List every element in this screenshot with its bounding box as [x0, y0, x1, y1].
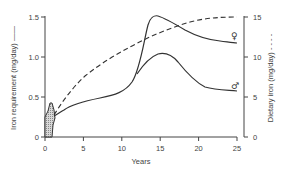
female-requirement-line: [54, 16, 237, 116]
dietary-iron-dashed-line: [54, 17, 237, 115]
svg-text:0: 0: [43, 144, 47, 153]
svg-text:15: 15: [253, 13, 261, 22]
right-y-tick-labels: 15 10 5 0: [253, 13, 261, 142]
chart: 1.5 1.0 0.5 0 Iron requirement (mg/day) …: [0, 0, 281, 176]
x-tick-labels: 0 5 10 15 20 25: [43, 144, 241, 153]
x-axis-title: Years: [132, 157, 151, 166]
svg-text:5: 5: [81, 144, 85, 153]
left-y-tick-labels: 1.5 1.0 0.5 0: [29, 13, 39, 142]
svg-text:1.5: 1.5: [29, 13, 39, 22]
svg-text:20: 20: [194, 144, 202, 153]
svg-text:25: 25: [233, 144, 241, 153]
right-y-axis-title: Dietary iron (mg/day) - - - -: [266, 33, 275, 122]
left-y-axis: [41, 16, 45, 137]
svg-text:0.5: 0.5: [29, 93, 39, 102]
male-requirement-line: [137, 53, 237, 91]
svg-text:15: 15: [156, 144, 164, 153]
svg-text:0: 0: [35, 133, 39, 142]
svg-text:5: 5: [253, 93, 257, 102]
right-y-axis: [244, 16, 248, 137]
female-symbol: ♀: [231, 31, 238, 41]
infant-requirement-hatched-area: [45, 103, 55, 137]
svg-text:1.0: 1.0: [29, 53, 39, 62]
svg-text:10: 10: [253, 53, 261, 62]
left-y-axis-title: Iron requirement (mg/day) ——: [9, 26, 18, 130]
svg-text:10: 10: [118, 144, 126, 153]
x-axis: [45, 137, 237, 141]
svg-text:0: 0: [253, 133, 257, 142]
male-symbol: ♂: [231, 81, 239, 91]
